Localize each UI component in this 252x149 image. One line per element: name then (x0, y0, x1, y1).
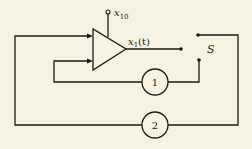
switch-label: S (207, 43, 215, 56)
output-label: x1(t) (128, 36, 150, 49)
block-2-label: 2 (152, 120, 158, 131)
circuit-diagram: x10 x1(t) S 2 1 (0, 0, 252, 149)
input-arrow-1 (87, 34, 93, 39)
switch-common-contact (179, 47, 183, 51)
input-arrow-2 (87, 59, 93, 64)
block-1-label: 1 (152, 77, 158, 88)
initial-condition-label: x10 (114, 7, 129, 21)
inner-loop-wire-right (168, 60, 199, 82)
initial-condition-terminal (106, 10, 110, 14)
outer-loop-wire-left (15, 36, 142, 125)
integrator-amplifier (93, 29, 126, 70)
inner-loop-wire-left (54, 61, 142, 82)
